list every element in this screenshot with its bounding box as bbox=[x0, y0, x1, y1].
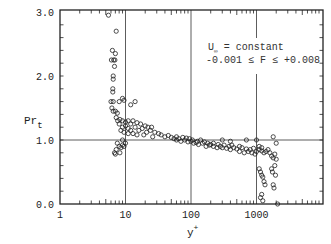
data-point bbox=[126, 132, 130, 136]
data-point bbox=[129, 103, 133, 107]
data-point bbox=[131, 119, 135, 123]
data-point bbox=[112, 64, 116, 68]
x-tick-label: 100 bbox=[182, 210, 200, 221]
data-point bbox=[157, 132, 161, 136]
data-point bbox=[117, 100, 121, 104]
data-point bbox=[273, 152, 277, 156]
y-axis-title: Prt bbox=[24, 115, 43, 131]
x-tick-label: 10 bbox=[119, 210, 131, 221]
data-point bbox=[114, 29, 118, 33]
chart-canvas: 0.01.02.03.0 1101001000 U∞ = constant -0… bbox=[0, 0, 331, 244]
data-point bbox=[237, 144, 241, 148]
data-point bbox=[261, 199, 265, 203]
data-point bbox=[135, 133, 139, 137]
y-tick-label: 2.0 bbox=[36, 72, 54, 83]
y-tick-label: 1.0 bbox=[36, 136, 54, 147]
y-tick-label: 3.0 bbox=[36, 8, 54, 19]
annotation-line-2: -0.001 ≤ F ≤ +0.008 bbox=[206, 55, 320, 66]
data-point bbox=[113, 152, 117, 156]
y-tick-label: 0.0 bbox=[36, 200, 54, 211]
x-tick-labels: 1101001000 bbox=[57, 210, 269, 221]
y-tick-labels: 0.01.02.03.0 bbox=[36, 8, 54, 211]
data-point bbox=[242, 151, 246, 155]
data-point bbox=[237, 149, 241, 153]
data-point bbox=[240, 146, 244, 150]
data-point bbox=[273, 164, 277, 168]
data-point bbox=[133, 100, 137, 104]
data-point bbox=[113, 52, 117, 56]
data-point bbox=[151, 135, 155, 139]
data-point bbox=[273, 173, 277, 177]
data-point bbox=[274, 141, 278, 145]
data-point bbox=[133, 125, 137, 129]
x-tick-label: 1000 bbox=[244, 210, 268, 221]
data-point bbox=[106, 13, 110, 17]
data-point bbox=[140, 126, 144, 130]
x-axis-title: y+ bbox=[187, 223, 199, 239]
data-point bbox=[271, 135, 275, 139]
x-tick-label: 1 bbox=[57, 210, 63, 221]
data-point bbox=[142, 133, 146, 137]
data-point bbox=[131, 132, 135, 136]
data-point bbox=[118, 151, 122, 155]
